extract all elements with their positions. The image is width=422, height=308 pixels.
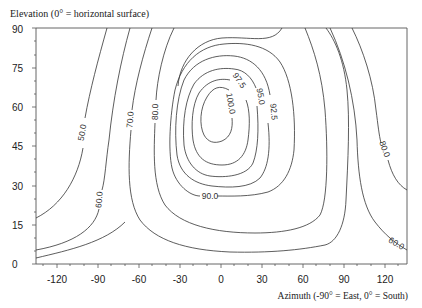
- contour-label-90: 90.0: [202, 191, 219, 201]
- x-tick--30: -30: [173, 274, 188, 285]
- x-tick-90: 90: [338, 274, 350, 285]
- contour-label-50-right: 80.0: [377, 139, 392, 158]
- contour-chart: Elevation (0° = horizontal surface) 0 15…: [0, 0, 422, 308]
- x-tick--90: -90: [91, 274, 106, 285]
- y-axis: 0 15 30 45 60 75 90: [12, 24, 36, 270]
- x-tick-0: 0: [218, 274, 224, 285]
- y-axis-label: Elevation (0° = horizontal surface): [10, 8, 149, 20]
- contour-label-60-right: 60.0: [387, 235, 407, 252]
- plot-area: [36, 28, 407, 264]
- y-tick-90: 90: [12, 24, 24, 35]
- x-axis-label: Azimuth (-90° = East, 0° = South): [278, 291, 408, 302]
- contour-label-92-5: 92.5: [268, 103, 279, 121]
- y-tick-75: 75: [12, 63, 24, 74]
- y-tick-0: 0: [12, 259, 18, 270]
- y-tick-30: 30: [12, 181, 24, 192]
- contour-label-50-left: 50.0: [76, 123, 89, 141]
- x-tick-30: 30: [256, 274, 268, 285]
- y-tick-60: 60: [12, 102, 24, 113]
- x-tick-60: 60: [297, 274, 309, 285]
- contour-lines: [36, 28, 407, 258]
- contour-label-100: 100.0: [224, 92, 238, 115]
- x-tick-120: 120: [377, 274, 394, 285]
- x-axis: -120 -90 -60 -30 0 30 60 90 120 Azimuth …: [43, 264, 408, 302]
- y-tick-15: 15: [12, 220, 24, 231]
- contour-label-95: 95.0: [255, 87, 268, 105]
- x-tick--120: -120: [47, 274, 67, 285]
- y-tick-45: 45: [12, 141, 24, 152]
- contour-label-70: 70.0: [124, 111, 135, 129]
- contour-labels: 50.0 60.0 70.0 80.0 90.0 92.5 95.0 97.5 …: [76, 71, 407, 252]
- contour-label-60-left: 60.0: [93, 191, 104, 209]
- x-tick--60: -60: [132, 274, 147, 285]
- contour-label-80: 80.0: [150, 103, 161, 120]
